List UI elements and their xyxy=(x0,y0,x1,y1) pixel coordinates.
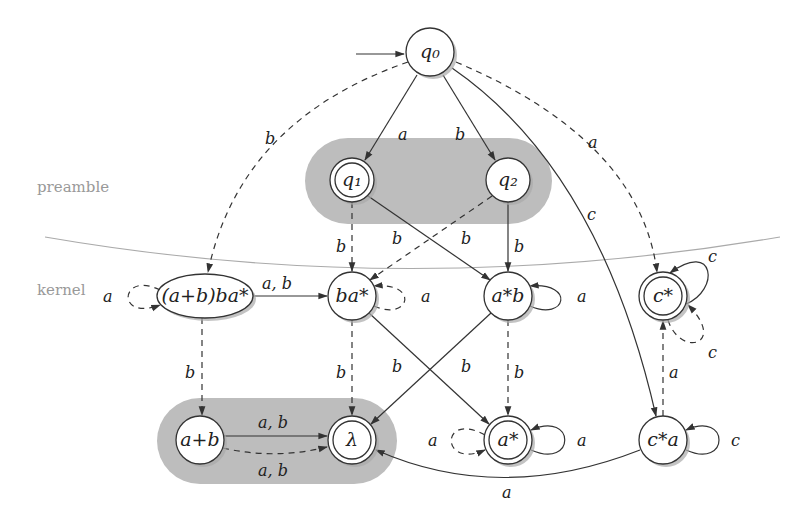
automaton-diagram: preamble kernel xyxy=(0,0,811,523)
edge-as-loop-dashed xyxy=(451,429,485,454)
svg-text:λ: λ xyxy=(345,428,358,450)
label-ab-loop: a xyxy=(577,287,587,306)
label-abba-ba: a, b xyxy=(262,274,292,293)
label-abba-loop: a xyxy=(103,287,113,306)
label-cs-loop-dashed: c xyxy=(708,343,717,362)
preamble-kernel-separator xyxy=(45,237,780,269)
state-q0: q₀ xyxy=(406,28,454,76)
svg-text:c*a: c*a xyxy=(647,428,678,450)
edge-ab-lambda xyxy=(371,313,491,424)
label-ba-as: b xyxy=(392,357,402,376)
label-ba-loop: a xyxy=(421,287,431,306)
label-cs-loop-solid: c xyxy=(708,247,717,266)
svg-text:c*: c* xyxy=(653,284,674,306)
state-a-star: a* xyxy=(484,416,532,464)
state-lambda: λ xyxy=(328,416,376,464)
state-c-star: c* xyxy=(639,272,687,320)
label-q0-q1: a xyxy=(398,125,408,144)
svg-text:a*b: a*b xyxy=(492,284,525,306)
state-a-plus-b: a+b xyxy=(176,416,224,464)
edge-q0-ca xyxy=(452,68,656,416)
state-q1: q₁ xyxy=(330,158,374,202)
label-q0-abba: b xyxy=(265,129,275,148)
state-c-star-a: c*a xyxy=(639,416,687,464)
label-ca-cs: a xyxy=(669,363,679,382)
label-q0-ca: c xyxy=(587,205,596,224)
label-as-loop-dashed: a xyxy=(428,431,438,450)
state-a-star-b: a*b xyxy=(484,272,532,320)
label-q2-ba: b xyxy=(461,229,471,248)
label-q1-ba: b xyxy=(336,237,346,256)
svg-text:a*: a* xyxy=(498,428,519,450)
svg-text:(a+b)ba*: (a+b)ba* xyxy=(161,284,249,306)
state-ba-star: ba* xyxy=(328,272,376,320)
label-ab-as: b xyxy=(514,363,524,382)
edge-as-loop-solid xyxy=(531,426,565,454)
svg-text:ba*: ba* xyxy=(336,284,369,306)
label-q0-cs: a xyxy=(588,133,598,152)
label-as-loop-solid: a xyxy=(577,431,587,450)
label-q0-q2: b xyxy=(455,125,465,144)
svg-text:q₁: q₁ xyxy=(342,168,362,190)
state-a-plus-b-ba-star: (a+b)ba* xyxy=(157,274,253,318)
edge-abba-loop xyxy=(128,285,160,308)
label-ca-lambda: a xyxy=(502,483,512,502)
state-q2: q₂ xyxy=(486,158,530,202)
label-q1-ab: b xyxy=(392,229,402,248)
label-q2-ab: b xyxy=(514,237,524,256)
kernel-region-label: kernel xyxy=(37,281,86,299)
label-apb-lambda-dashed: a, b xyxy=(258,461,288,480)
label-abba-apb: b xyxy=(185,363,195,382)
label-apb-lambda-solid: a, b xyxy=(258,413,288,432)
preamble-region-label: preamble xyxy=(37,178,109,196)
edge-ca-loop xyxy=(686,426,719,454)
label-ba-lambda: b xyxy=(336,363,346,382)
label-ca-loop: c xyxy=(731,431,740,450)
svg-text:a+b: a+b xyxy=(180,428,219,450)
label-ab-lambda: b xyxy=(461,357,471,376)
svg-text:q₂: q₂ xyxy=(498,168,518,190)
svg-text:q₀: q₀ xyxy=(420,40,440,62)
